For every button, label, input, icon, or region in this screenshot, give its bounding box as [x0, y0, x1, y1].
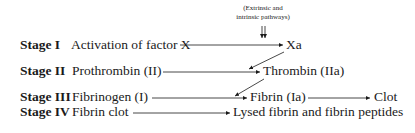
thrombin-diagonal-arrow — [235, 79, 264, 96]
xa-diagonal-arrow — [249, 52, 284, 69]
arrows-layer — [0, 0, 415, 133]
